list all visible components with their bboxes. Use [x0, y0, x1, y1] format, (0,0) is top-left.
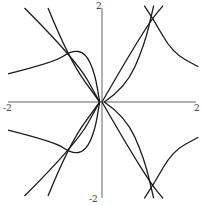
curve-0 [25, 8, 100, 102]
y-tick-label-min: -2 [89, 195, 98, 204]
chart-canvas [0, 0, 204, 205]
x-tick-label-max: 2 [194, 104, 200, 113]
curve-3 [25, 102, 100, 196]
curve-10 [104, 102, 153, 198]
curve-11 [144, 137, 198, 198]
y-tick-label-max: 2 [96, 2, 102, 11]
curve-8 [144, 6, 198, 67]
plot-area: -2 2 2 -2 [0, 0, 204, 205]
curve-7 [104, 6, 153, 102]
x-tick-label-min: -2 [3, 104, 12, 113]
